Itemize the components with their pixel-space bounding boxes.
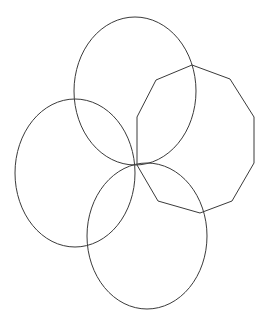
bottom-circle [87,163,207,309]
drawing-canvas [0,0,266,326]
top-circle [74,17,196,165]
